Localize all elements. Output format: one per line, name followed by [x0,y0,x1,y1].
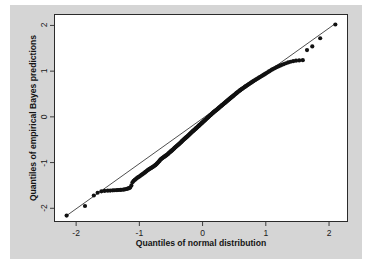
y-tick-label: 0 [39,114,49,119]
y-tick-label: 1 [39,69,49,74]
plot-area-frame [54,14,348,222]
x-tick-label: -1 [136,228,144,238]
x-tick-label: -2 [72,228,80,238]
y-tick-label: -2 [39,205,49,213]
y-axis-title: Quantiles of empirical Bayes predictions [28,35,38,201]
figure-container: -2 -1 0 1 2 -2 -1 0 1 2 Quantiles of nor… [0,0,371,276]
y-tick-label: -1 [39,159,49,167]
x-tick-label: 0 [200,228,205,238]
x-axis-title: Quantiles of normal distribution [136,238,266,248]
y-tick-label: 2 [39,23,49,28]
x-tick-label: 2 [327,228,332,238]
x-tick-label: 1 [263,228,268,238]
